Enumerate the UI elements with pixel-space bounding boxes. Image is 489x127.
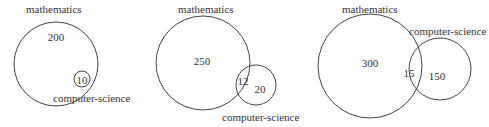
d2-computer-science-label: computer-science bbox=[222, 112, 299, 123]
d3-computer-science-only-value: 150 bbox=[429, 71, 446, 82]
d2-intersection-value: 12 bbox=[238, 76, 249, 87]
d3-mathematics-label: mathematics bbox=[342, 4, 398, 15]
d1-mathematics-only-value: 200 bbox=[48, 32, 65, 43]
d2-computer-science-only-value: 20 bbox=[255, 84, 266, 95]
d1-mathematics-label: mathematics bbox=[26, 4, 82, 15]
d2-mathematics-label: mathematics bbox=[178, 4, 234, 15]
d3-mathematics-only-value: 300 bbox=[362, 58, 379, 69]
d1-computer-science-value: 10 bbox=[77, 75, 88, 86]
d3-intersection-value: 15 bbox=[404, 68, 415, 79]
d3-computer-science-label: computer-science bbox=[409, 26, 486, 37]
d1-computer-science-label: computer-science bbox=[53, 93, 130, 104]
venn-diagrams bbox=[0, 0, 489, 127]
d2-mathematics-only-value: 250 bbox=[194, 56, 211, 67]
